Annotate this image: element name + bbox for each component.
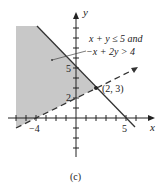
y-axis-arrow-icon (73, 12, 79, 19)
x-tick-label-5: 5 (122, 123, 127, 134)
annotation-line-1: x + y ≤ 5 and (88, 33, 144, 44)
figure-caption: (c) (70, 171, 81, 183)
x-axis-label: x (149, 121, 155, 133)
y-axis-label: y (82, 6, 88, 18)
y-tick-label-5: 5 (66, 63, 71, 74)
x-tick-label-neg4: −4 (29, 123, 40, 134)
intersection-point (94, 86, 98, 90)
y-tick-label-2: 2 (66, 92, 71, 103)
annotation-line-2: −x + 2y > 4 (86, 46, 135, 57)
leader-dot (51, 59, 53, 61)
shaded-region (16, 26, 96, 128)
inequality-graph: y x −4 5 5 2 (2, 3) x + y ≤ 5 and −x + 2… (0, 0, 163, 186)
point-label: (2, 3) (102, 83, 124, 95)
dashed-line-arrow-icon (131, 67, 138, 73)
